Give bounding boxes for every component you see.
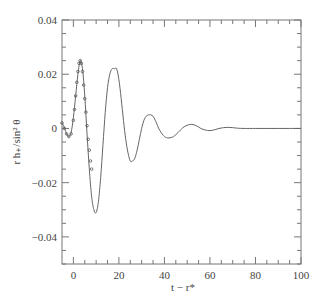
data-marker — [87, 138, 90, 141]
y-tick-labels: 0.040.020−0.02−0.04 — [32, 14, 58, 243]
y-axis-label: r h₊/sin² θ — [10, 119, 22, 164]
axis-ticks — [62, 20, 301, 264]
x-tick-labels: 020406080100 — [71, 269, 310, 281]
x-tick-label: 80 — [250, 269, 262, 281]
waveform-line — [62, 61, 301, 214]
y-tick-label: 0.02 — [38, 68, 57, 80]
plot-frame — [62, 20, 301, 264]
x-tick-label: 100 — [293, 269, 310, 281]
chart: 020406080100 0.040.020−0.02−0.04 t − r* … — [0, 0, 319, 302]
y-tick-label: −0.04 — [32, 231, 58, 243]
y-tick-label: −0.02 — [32, 177, 57, 189]
y-tick-label: 0.04 — [38, 14, 58, 26]
x-axis-label: t − r* — [171, 281, 195, 293]
x-tick-label: 60 — [204, 269, 216, 281]
data-marker — [88, 149, 91, 152]
x-tick-label: 0 — [71, 269, 77, 281]
data-marker — [89, 160, 92, 163]
data-marker — [90, 168, 93, 171]
x-tick-label: 20 — [113, 269, 125, 281]
x-tick-label: 40 — [159, 269, 171, 281]
y-tick-label: 0 — [52, 122, 58, 134]
